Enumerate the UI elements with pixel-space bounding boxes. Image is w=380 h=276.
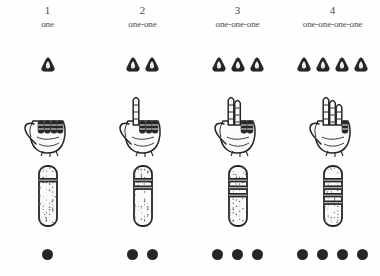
figure-sheet: 1 one 2 one-one 3 one-one-one 4 one-one-…	[0, 0, 380, 276]
hand-icon	[17, 91, 79, 157]
numeral-word-label: one-one	[128, 17, 156, 31]
pebble-token	[315, 57, 331, 72]
pebble-group	[40, 57, 56, 72]
dot-cell-col1	[0, 232, 95, 276]
numeral-word-label: one-one-one-one	[303, 17, 362, 31]
dot-cell-col4	[285, 232, 380, 276]
pebble-cell-col1	[0, 40, 95, 88]
pebble-token	[40, 57, 56, 72]
dot-token	[317, 249, 328, 260]
dot-cell-col2	[95, 232, 190, 276]
dot-token	[357, 249, 368, 260]
hand-cell-col2	[95, 88, 190, 160]
pebble-token	[334, 57, 350, 72]
numeral-word-label: one	[41, 17, 54, 31]
dot-token	[147, 249, 158, 260]
hand-cell-col3	[190, 88, 285, 160]
hand-icon	[302, 91, 364, 157]
dot-group	[212, 249, 263, 260]
pebble-group	[211, 57, 265, 72]
numeral-label: 3	[235, 4, 241, 17]
tally-stick-icon	[225, 164, 251, 228]
pebble-token	[249, 57, 265, 72]
header-cell-col1: 1 one	[0, 0, 95, 40]
pebble-token	[144, 57, 160, 72]
pebble-group	[296, 57, 369, 72]
header-cell-col2: 2 one-one	[95, 0, 190, 40]
numeral-word-label: one-one-one	[216, 17, 260, 31]
dot-token	[252, 249, 263, 260]
numeral-label: 1	[45, 4, 51, 17]
pebble-token	[230, 57, 246, 72]
pebble-cell-col2	[95, 40, 190, 88]
stick-cell-col1	[0, 160, 95, 232]
hand-icon	[112, 91, 174, 157]
hand-cell-col4	[285, 88, 380, 160]
dot-token	[127, 249, 138, 260]
dot-token	[232, 249, 243, 260]
stick-cell-col2	[95, 160, 190, 232]
dot-token	[42, 249, 53, 260]
pebble-token	[296, 57, 312, 72]
dot-group	[42, 249, 53, 260]
pebble-group	[125, 57, 160, 72]
stick-cell-col4	[285, 160, 380, 232]
dot-group	[127, 249, 158, 260]
tally-stick-icon	[320, 164, 346, 228]
pebble-cell-col3	[190, 40, 285, 88]
dot-token	[212, 249, 223, 260]
numeral-label: 4	[330, 4, 336, 17]
dot-cell-col3	[190, 232, 285, 276]
hand-icon	[207, 91, 269, 157]
tally-stick-icon	[130, 164, 156, 228]
header-cell-col4: 4 one-one-one-one	[285, 0, 380, 40]
number-representation-grid: 1 one 2 one-one 3 one-one-one 4 one-one-…	[0, 0, 380, 276]
pebble-token	[125, 57, 141, 72]
header-cell-col3: 3 one-one-one	[190, 0, 285, 40]
pebble-token	[211, 57, 227, 72]
hand-cell-col1	[0, 88, 95, 160]
tally-stick-icon	[35, 164, 61, 228]
pebble-token	[353, 57, 369, 72]
dot-group	[297, 249, 368, 260]
stick-cell-col3	[190, 160, 285, 232]
dot-token	[337, 249, 348, 260]
dot-token	[297, 249, 308, 260]
numeral-label: 2	[140, 4, 146, 17]
pebble-cell-col4	[285, 40, 380, 88]
